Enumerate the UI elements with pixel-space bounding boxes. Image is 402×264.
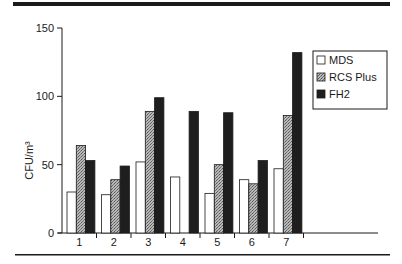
bar-rcs-plus-2 — [111, 180, 120, 233]
bar-fh2-1 — [86, 161, 95, 233]
legend-label: MDS — [329, 54, 353, 66]
x-tick-label: 6 — [249, 236, 255, 248]
x-tick-label: 7 — [283, 236, 289, 248]
bar-mds-3 — [136, 162, 145, 233]
x-tick-label: 3 — [145, 236, 151, 248]
bar-rcs-plus-6 — [249, 184, 258, 233]
bar-mds-5 — [205, 193, 214, 233]
bar-fh2-6 — [258, 161, 267, 233]
x-tick-label: 2 — [111, 236, 117, 248]
bar-mds-1 — [67, 192, 76, 233]
legend-swatch-mds — [317, 56, 325, 64]
bar-mds-6 — [240, 180, 249, 233]
bar-rcs-plus-1 — [76, 146, 85, 233]
bar-fh2-2 — [120, 166, 129, 233]
x-tick-label: 1 — [76, 236, 82, 248]
legend-swatch-fh2 — [317, 90, 325, 98]
bar-mds-2 — [102, 195, 111, 233]
bar-fh2-5 — [224, 113, 233, 233]
bar-rcs-plus-5 — [214, 165, 223, 233]
bottom-border — [15, 254, 390, 256]
legend-label: FH2 — [329, 88, 350, 100]
bar-fh2-7 — [293, 53, 302, 233]
bar-rcs-plus-7 — [283, 115, 292, 233]
x-tick-label: 4 — [180, 236, 186, 248]
legend-label: RCS Plus — [329, 71, 377, 83]
bar-rcs-plus-3 — [145, 111, 154, 233]
top-border — [13, 2, 390, 6]
legend-swatch-rcs-plus — [317, 73, 325, 81]
bar-mds-4 — [171, 177, 180, 233]
x-tick-label: 5 — [214, 236, 220, 248]
y-tick-label: 100 — [36, 90, 54, 102]
chart: 050100150CFU/m³1234567 MDSRCS PlusFH2 — [0, 0, 402, 264]
y-tick-label: 50 — [42, 159, 54, 171]
y-axis-title: CFU/m³ — [23, 141, 35, 180]
bar-fh2-4 — [189, 111, 198, 233]
y-tick-label: 0 — [48, 227, 54, 239]
y-tick-label: 150 — [36, 22, 54, 34]
bar-mds-7 — [274, 169, 283, 233]
bar-fh2-3 — [155, 98, 164, 233]
